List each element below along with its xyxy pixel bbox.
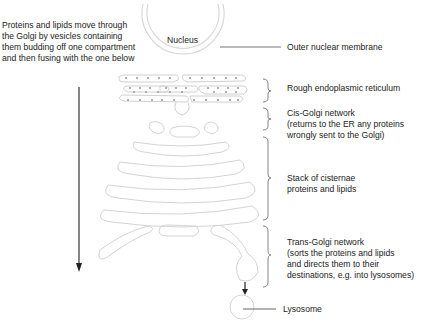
stack-label: Stack of cisternae proteins and lipids [287,173,356,195]
cis-golgi-shape [149,122,218,137]
cis-golgi-line: wrongly sent to the Golgi) [287,130,404,141]
description-line: Proteins and lipids move through [2,20,135,31]
brace-stack [263,137,271,220]
description-line: them budding off one compartment [2,42,135,53]
cis-golgi-label: Cis-Golgi network (returns to the ER any… [287,108,404,141]
description-line: and then fusing with the one below [2,53,135,64]
ribosome-dots [125,77,239,101]
cis-golgi-line: (returns to the ER any proteins [287,119,404,130]
stack-line: proteins and lipids [287,184,356,195]
rough-er-shape [119,75,247,115]
stack-title: Stack of cisternae [287,173,356,184]
trans-golgi-title: Trans-Golgi network [287,237,414,248]
trans-golgi-shape [99,225,258,281]
cis-golgi-title: Cis-Golgi network [287,108,404,119]
brace-rough-er [263,79,271,102]
lysosome-shape [230,295,254,319]
description-line: the Golgi by vesicles containing [2,31,135,42]
braces [263,79,271,287]
nucleus-shape [142,4,224,54]
outer-membrane-label: Outer nuclear membrane [287,42,383,53]
trans-golgi-line: and directs them to their [287,259,414,270]
rough-er-label: Rough endoplasmic reticulum [287,83,400,94]
cisternae-stack [100,142,258,227]
flow-arrow [76,87,82,272]
nucleus-label: Nucleus [167,35,198,46]
description-text: Proteins and lipids move through the Gol… [2,20,135,64]
brace-cis-golgi [263,108,271,130]
brace-trans-golgi [263,226,271,287]
trans-golgi-line: destinations, e.g. into lysosomes) [287,270,414,281]
lysosome-label: Lysosome [283,304,322,315]
trans-golgi-label: Trans-Golgi network (sorts the proteins … [287,237,414,281]
trans-golgi-line: (sorts the proteins and lipids [287,248,414,259]
lysosome-arrow [242,282,248,295]
